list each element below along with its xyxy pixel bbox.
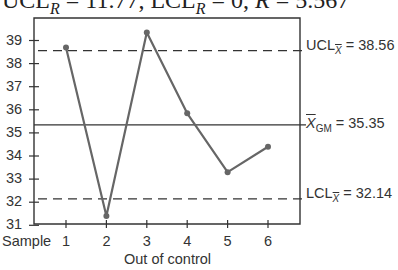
ucl-value: = 38.56 [342, 37, 395, 53]
x-tick-label: 5 [224, 233, 232, 249]
data-point-marker [225, 169, 231, 175]
y-tick-label: 36 [6, 101, 22, 117]
y-tick-label: 39 [6, 32, 22, 48]
plot-frame [34, 18, 300, 224]
y-tick-label: 37 [6, 78, 22, 94]
cl-value: = 35.35 [332, 115, 385, 131]
data-point-marker [265, 144, 271, 150]
y-tick-label: 35 [6, 124, 22, 140]
center-line-label: XGM = 35.35 [306, 115, 385, 134]
x-tick-label: 1 [62, 233, 70, 249]
y-tick-label: 38 [6, 55, 22, 71]
data-point-marker [63, 44, 69, 50]
y-tick-label: 31 [6, 216, 22, 232]
x-tick-label: 3 [143, 233, 151, 249]
lcl-value: = 32.14 [339, 185, 392, 201]
data-point-marker [144, 29, 150, 35]
out-of-control-annotation: Out of control [124, 251, 211, 267]
lcl-label: LCLX = 32.14 [306, 185, 392, 204]
lcl-prefix: LCL [306, 185, 333, 201]
ucl-prefix: UCL [306, 37, 335, 53]
x-tick-label: 2 [102, 233, 110, 249]
x-tick-label: 4 [183, 233, 191, 249]
y-tick-label: 32 [6, 193, 22, 209]
data-point-marker [103, 213, 109, 219]
x-tick-label: 6 [264, 233, 272, 249]
y-tick-label: 34 [6, 147, 22, 163]
cl-sub: GM [316, 123, 332, 134]
ucl-label: UCLX = 38.56 [306, 37, 395, 56]
cl-prefix: X [306, 115, 316, 131]
data-point-marker [184, 110, 190, 116]
ucl-sub: X [335, 45, 342, 56]
y-tick-label: 33 [6, 170, 22, 186]
x-axis-label: Sample [2, 233, 51, 249]
